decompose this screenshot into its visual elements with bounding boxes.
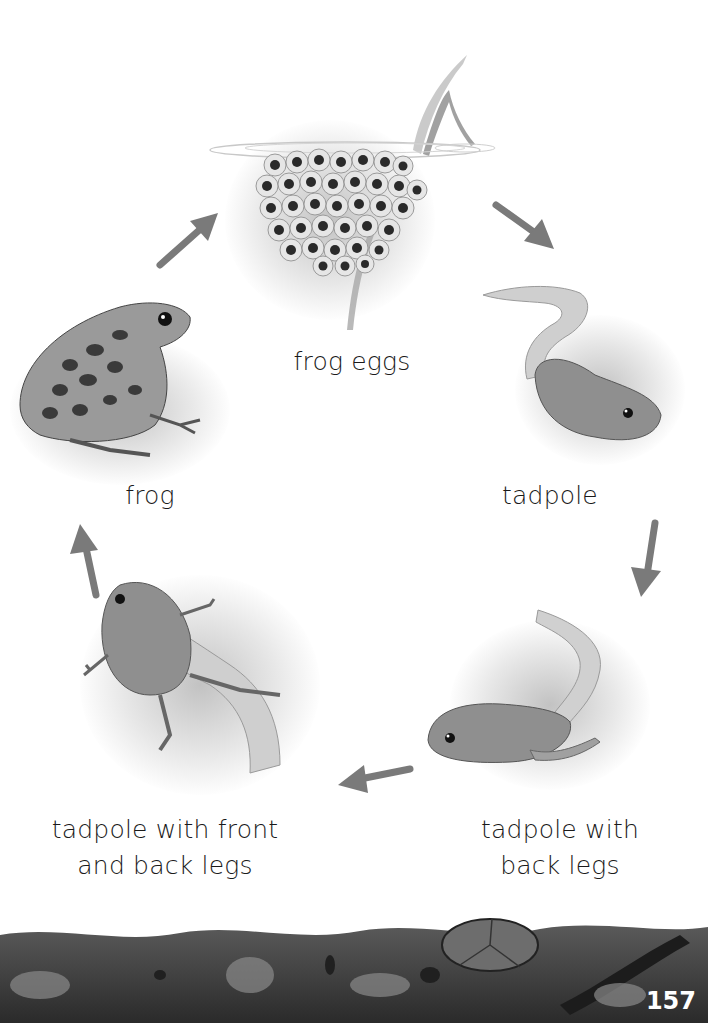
label-frog: frog <box>100 478 200 514</box>
arrow-tadpole-to-back-legs-icon <box>625 515 685 605</box>
label-tadpole: tadpole <box>480 478 620 514</box>
arrow-front-legs-to-frog-icon <box>62 520 112 610</box>
label-line-2: and back legs <box>50 848 280 884</box>
label-tadpole-with-front-and-back-legs: tadpole with front and back legs <box>50 812 280 884</box>
tadpole-with-front-and-back-legs-illustration <box>80 575 310 785</box>
label-tadpole-with-back-legs: tadpole with back legs <box>470 812 650 884</box>
frog-eggs-illustration <box>205 50 500 340</box>
page-number: 157 <box>646 987 696 1015</box>
tadpole-with-back-legs-illustration <box>420 600 640 785</box>
arrow-back-legs-to-front-legs-icon <box>330 755 420 805</box>
label-line-1: tadpole with <box>470 812 650 848</box>
label-line-2: back legs <box>470 848 650 884</box>
pond-border-illustration: 157 <box>0 915 708 1023</box>
arrow-frog-to-eggs-icon <box>150 205 230 275</box>
tadpole-illustration <box>475 275 675 465</box>
arrow-eggs-to-tadpole-icon <box>488 195 568 265</box>
frog-illustration <box>10 295 210 470</box>
label-frog-eggs: frog eggs <box>272 344 432 380</box>
label-line-1: tadpole with front <box>50 812 280 848</box>
